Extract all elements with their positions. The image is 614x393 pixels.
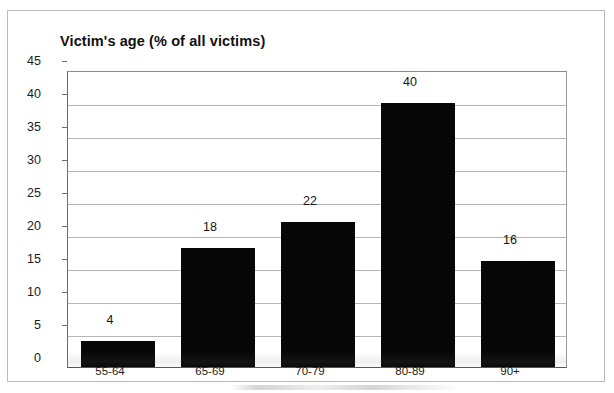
bar-value-label-90+: 16 [503,233,517,247]
x-tick-label-90+: 90+ [500,365,520,377]
y-tick-mark-10 [62,292,67,293]
y-tick-mark-45 [62,61,67,62]
y-tick-mark-15 [62,259,67,260]
bar-value-label-65-69: 18 [203,220,217,234]
x-tick-label-55-64: 55-64 [95,365,124,377]
y-tick-mark-25 [62,193,67,194]
bar-value-label-80-89: 40 [403,75,417,89]
bar-65-69[interactable] [181,248,256,367]
x-tick-label-65-69: 65-69 [195,365,224,377]
bar-90+[interactable] [481,261,556,367]
figure-border: Victim's age (% of all victims) 45403530… [7,10,605,382]
bar-55-64[interactable] [81,341,156,367]
bar-70-79[interactable] [281,222,356,367]
bar-value-label-70-79: 22 [303,194,317,208]
scan-artifact [230,385,460,390]
y-tick-label-20: 20 [1,219,41,233]
y-tick-label-45: 45 [1,54,41,68]
y-tick-mark-5 [62,325,67,326]
y-tick-mark-30 [62,160,67,161]
gridline-40 [68,105,566,106]
y-tick-label-40: 40 [1,87,41,101]
x-tick-label-80-89: 80-89 [395,365,424,377]
bar-80-89[interactable] [381,103,456,367]
bar-value-label-55-64: 4 [107,313,114,327]
y-tick-label-15: 15 [1,252,41,266]
y-tick-label-10: 10 [1,285,41,299]
y-tick-mark-40 [62,94,67,95]
gridline-35 [68,138,566,139]
x-tick-label-70-79: 70-79 [295,365,324,377]
y-tick-mark-20 [62,226,67,227]
gridline-30 [68,171,566,172]
y-tick-label-0: 0 [1,351,41,365]
y-tick-mark-35 [62,127,67,128]
y-tick-label-30: 30 [1,153,41,167]
y-tick-label-25: 25 [1,186,41,200]
y-tick-label-5: 5 [1,318,41,332]
y-tick-label-35: 35 [1,120,41,134]
chart-title: Victim's age (% of all victims) [60,33,265,49]
plot-area [67,71,567,368]
